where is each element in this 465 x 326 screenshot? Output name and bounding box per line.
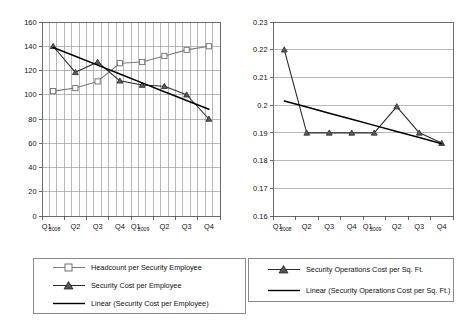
svg-text:Q4: Q4 [437, 222, 447, 231]
chart-right-canvas: 0.160.170.180.190.20.210.220.23Q12008Q2Q… [233, 0, 465, 250]
legend-right-box: Security Operations Cost per Sq. Ft. Lin… [248, 258, 454, 302]
x-tick-label: Q3 [182, 222, 192, 231]
x-tick-label: Q12008 [42, 222, 61, 232]
y-tick-label: 0.18 [253, 156, 267, 165]
y-tick-label: 0.2 [257, 101, 267, 110]
y-tick-label: 40 [28, 163, 36, 172]
legend-label: Security Operations Cost per Sq. Ft. [306, 265, 423, 274]
svg-text:2009: 2009 [370, 226, 382, 232]
svg-text:Q3: Q3 [414, 222, 424, 231]
legend-label: Linear (Security Cost per Employee) [91, 299, 209, 308]
legend-marker-open-square [52, 262, 86, 273]
svg-text:Q3: Q3 [324, 222, 334, 231]
svg-text:Q2: Q2 [302, 222, 312, 231]
y-tick-label: 0.19 [253, 129, 267, 138]
svg-text:Q4: Q4 [347, 222, 357, 231]
x-tick-label: Q2 [159, 222, 169, 231]
x-tick-label: Q3 [414, 222, 424, 231]
chart-security-operations-cost-per-sqft: 0.160.170.180.190.20.210.220.23Q12008Q2Q… [233, 0, 465, 250]
y-tick-label: 20 [28, 187, 36, 196]
legend-marker-triangle [267, 264, 301, 275]
y-tick-label: 100 [24, 90, 36, 99]
y-tick-label: 140 [24, 42, 36, 51]
chart-headcount-and-cost-per-employee: 020406080100120140160Q12008Q2Q3Q4Q12009Q… [0, 0, 235, 250]
legend-item: Security Cost per Employee [34, 277, 245, 295]
y-tick-label: 80 [28, 115, 36, 124]
svg-text:2008: 2008 [49, 226, 61, 232]
y-tick-label: 120 [24, 66, 36, 75]
y-tick-label: 0.17 [253, 184, 267, 193]
svg-text:Q4: Q4 [204, 222, 214, 231]
x-tick-label: Q4 [437, 222, 447, 231]
legend-marker-line [52, 298, 86, 309]
x-tick-label: Q4 [115, 222, 125, 231]
data-point-marker [162, 53, 167, 58]
svg-text:Q3: Q3 [93, 222, 103, 231]
data-point-marker [394, 104, 400, 109]
x-tick-label: Q2 [70, 222, 80, 231]
svg-text:2009: 2009 [138, 226, 150, 232]
legend-left-box: Headcount per Security Employee Security… [33, 258, 246, 314]
y-tick-label: 0.22 [253, 45, 267, 54]
legend-label: Security Cost per Employee [91, 281, 181, 290]
series-line [284, 50, 442, 143]
legend-item: Security Operations Cost per Sq. Ft. [249, 259, 453, 280]
y-tick-label: 60 [28, 139, 36, 148]
y-tick-label: 0.16 [253, 212, 267, 221]
legend-label: Linear (Security Operations Cost per Sq.… [306, 286, 450, 295]
y-tick-label: 160 [24, 18, 36, 27]
series-line [284, 101, 442, 144]
x-tick-label: Q12009 [363, 222, 382, 232]
data-point-marker [73, 85, 78, 90]
legend-marker-triangle [52, 280, 86, 291]
data-point-marker [117, 61, 122, 66]
data-point-marker [51, 89, 56, 94]
data-point-marker [206, 44, 211, 49]
x-tick-label: Q12008 [273, 222, 292, 232]
svg-text:Q2: Q2 [70, 222, 80, 231]
data-point-marker [95, 79, 100, 84]
data-point-marker [140, 59, 145, 64]
x-tick-label: Q4 [204, 222, 214, 231]
chart-left-canvas: 020406080100120140160Q12008Q2Q3Q4Q12009Q… [0, 0, 235, 250]
svg-text:Q3: Q3 [182, 222, 192, 231]
x-tick-label: Q2 [392, 222, 402, 231]
y-tick-label: 0.23 [253, 18, 267, 27]
legend-label: Headcount per Security Employee [91, 263, 202, 272]
legend-item: Headcount per Security Employee [34, 259, 245, 277]
y-tick-label: 0.21 [253, 73, 267, 82]
x-tick-label: Q12009 [131, 222, 150, 232]
data-point-marker [184, 47, 189, 52]
x-tick-label: Q2 [302, 222, 312, 231]
legend-left: Headcount per Security Employee Security… [33, 258, 246, 314]
y-tick-label: 0 [32, 212, 36, 221]
data-point-marker [95, 59, 101, 64]
svg-text:Q2: Q2 [159, 222, 169, 231]
x-tick-label: Q3 [324, 222, 334, 231]
x-tick-label: Q3 [93, 222, 103, 231]
svg-text:2008: 2008 [280, 226, 292, 232]
svg-text:Q4: Q4 [115, 222, 125, 231]
legend-marker-line [267, 285, 301, 296]
legend-right: Security Operations Cost per Sq. Ft. Lin… [248, 258, 454, 302]
x-tick-label: Q4 [347, 222, 357, 231]
legend-item: Linear (Security Cost per Employee) [34, 295, 245, 313]
legend-item: Linear (Security Operations Cost per Sq.… [249, 280, 453, 301]
svg-text:Q2: Q2 [392, 222, 402, 231]
